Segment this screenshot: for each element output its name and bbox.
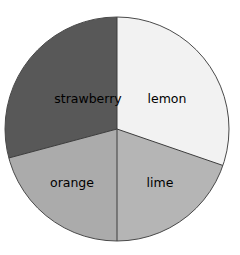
slice-label-strawberry: strawberry (54, 91, 122, 106)
pie-chart-figure: lemonlimeorangestrawberry (0, 0, 240, 255)
slice-label-lime: lime (147, 175, 174, 190)
pie-chart-svg: lemonlimeorangestrawberry (0, 0, 240, 255)
slice-label-orange: orange (50, 175, 94, 190)
slice-label-lemon: lemon (148, 91, 187, 106)
